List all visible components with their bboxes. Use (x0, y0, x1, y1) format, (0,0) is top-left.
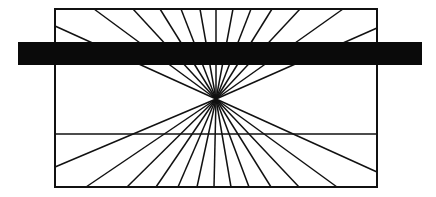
radial-rays (55, 9, 377, 187)
occluding-bar (18, 42, 422, 65)
illusion-figure (0, 0, 436, 197)
ray-line (216, 99, 377, 172)
ray-line (214, 99, 216, 187)
ray-line (127, 99, 216, 187)
ray-line (216, 99, 337, 187)
